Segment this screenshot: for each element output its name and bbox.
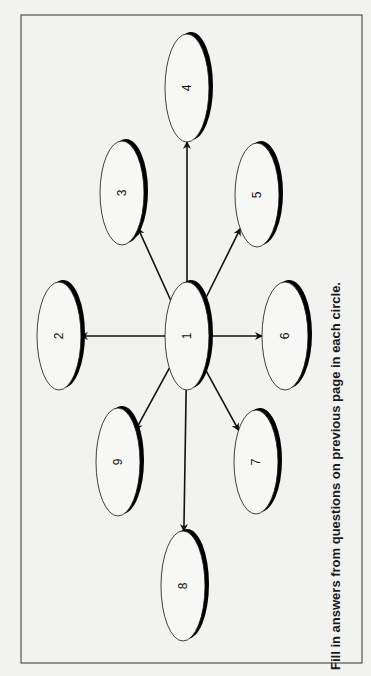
- node-label: 1: [180, 332, 194, 339]
- node-label: 6: [278, 332, 292, 339]
- circle-node-1[interactable]: 1: [165, 280, 213, 390]
- circle-node-2[interactable]: 2: [37, 280, 85, 390]
- node-label: 3: [115, 189, 129, 196]
- node-label: 2: [52, 332, 66, 339]
- arrow-1-to-9: [136, 368, 170, 430]
- circle-node-7[interactable]: 7: [234, 408, 282, 514]
- circle-node-5[interactable]: 5: [235, 141, 283, 247]
- instruction-caption: Fill in answers from questions on previo…: [328, 282, 343, 670]
- circle-node-3[interactable]: 3: [100, 139, 148, 245]
- node-label: 7: [249, 458, 263, 465]
- circle-node-9[interactable]: 9: [96, 406, 144, 516]
- circle-node-4[interactable]: 4: [165, 32, 213, 142]
- node-group: 123456789: [37, 32, 312, 641]
- diagram-page: 123456789 Fill in answers from questions…: [0, 0, 371, 676]
- arrow-1-to-8: [184, 390, 186, 531]
- arrow-1-to-7: [205, 368, 239, 430]
- node-label: 4: [180, 84, 194, 91]
- circle-node-8[interactable]: 8: [161, 529, 209, 641]
- arrow-1-to-5: [204, 229, 240, 302]
- node-label: 8: [176, 582, 190, 589]
- node-label: 5: [250, 191, 264, 198]
- hub-spoke-diagram: 123456789: [0, 0, 371, 676]
- arrow-1-to-3: [138, 228, 171, 300]
- circle-node-6[interactable]: 6: [262, 280, 312, 390]
- node-label: 9: [111, 458, 125, 465]
